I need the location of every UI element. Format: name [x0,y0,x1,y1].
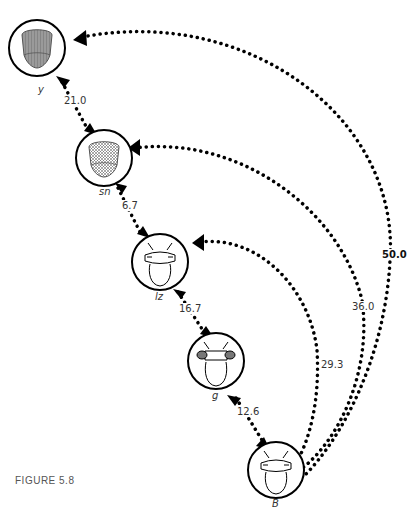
figure-caption: FIGURE 5.8 [15,475,74,486]
node-B [248,442,304,498]
distance-sn-lz: 6.7 [121,200,139,211]
distance-lz-B: 29.3 [320,359,344,370]
link-g-B [236,398,262,440]
node-y [9,20,65,76]
distance-y-sn: 21.0 [63,95,87,106]
link-y-sn [62,82,88,130]
distance-sn-B: 36.0 [351,301,375,312]
node-label-g: g [212,390,218,401]
distance-y-B: 50.0 [381,249,408,260]
node-lz [132,234,188,290]
node-label-y: y [38,84,44,95]
distance-lz-g: 16.7 [178,303,202,314]
distance-g-B: 12.6 [236,406,260,417]
node-sn [76,130,132,186]
linkage-map-diagram [0,0,414,518]
node-g [188,333,244,389]
node-label-lz: lz [155,291,163,302]
arc-sn-B [134,147,364,470]
node-label-B: B [272,498,279,509]
node-label-sn: sn [99,186,111,197]
